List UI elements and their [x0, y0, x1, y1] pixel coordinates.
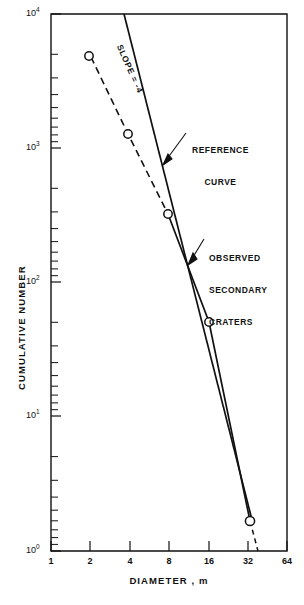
y-tick-label-10e0: 100 [26, 545, 40, 555]
y-tick-exponent: 3 [36, 140, 40, 147]
y-tick-exponent: 0 [36, 543, 40, 550]
y-tick-label-10e4: 104 [26, 8, 40, 18]
observed-craters-annotation-line1: OBSERVED [209, 253, 268, 264]
reference-curve-annotation: REFERENCE CURVE [192, 124, 249, 209]
y-tick-label-10e1: 101 [26, 410, 40, 420]
x-tick-label-32: 32 [238, 556, 258, 566]
data-point [85, 52, 93, 60]
observed-craters-leader [188, 239, 204, 265]
x-tick-label-2: 2 [80, 556, 100, 566]
x-axis-title: DIAMETER , m [51, 575, 287, 586]
y-tick-label-10e2: 102 [26, 276, 40, 286]
data-point [124, 130, 132, 138]
observed-craters-annotation-line2: SECONDARY [209, 285, 268, 296]
reference-curve-leader [163, 133, 186, 165]
data-point [245, 516, 254, 525]
y-tick-label-10e3: 103 [26, 142, 40, 152]
y-tick-exponent: 2 [36, 274, 40, 281]
y-axis-minor-ticks [51, 54, 58, 544]
x-tick-label-8: 8 [159, 556, 179, 566]
y-tick-exponent: 4 [36, 6, 40, 13]
y-tick-exponent: 1 [36, 408, 40, 415]
crater-size-frequency-figure: 104 103 102 101 100 1 2 4 8 16 32 64 CUM… [0, 0, 304, 605]
reference-curve-annotation-line1: REFERENCE [192, 145, 249, 156]
x-tick-label-16: 16 [199, 556, 219, 566]
observed-craters-annotation: OBSERVED SECONDARY CRATERS [209, 232, 268, 349]
x-tick-label-1: 1 [41, 556, 61, 566]
y-axis-title: CUMULATIVE NUMBER [16, 265, 27, 390]
x-tick-label-64: 64 [277, 556, 297, 566]
x-axis-ticks [51, 541, 287, 551]
reference-curve-annotation-line2: CURVE [192, 177, 249, 188]
data-point [164, 210, 172, 218]
x-tick-label-4: 4 [120, 556, 140, 566]
observed-craters-annotation-line3: CRATERS [209, 317, 268, 328]
